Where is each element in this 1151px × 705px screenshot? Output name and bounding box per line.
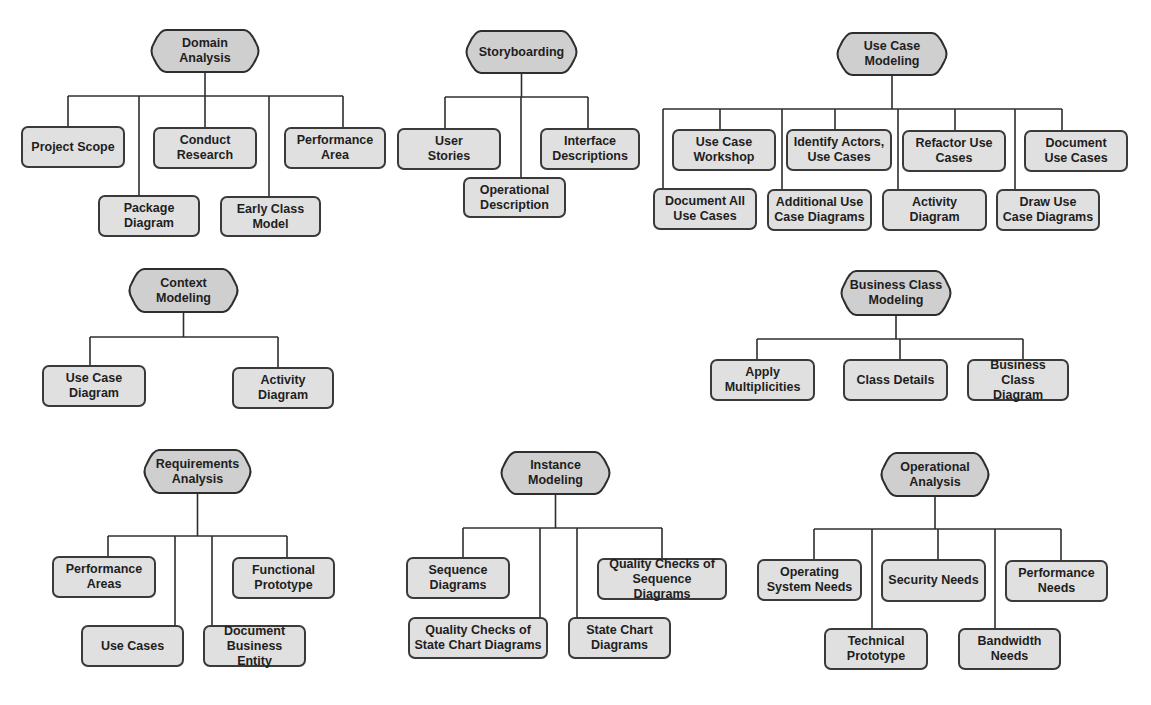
task-node-label: Additional Use Case Diagrams <box>774 195 864 225</box>
phase-node-label: Domain Analysis <box>179 36 230 66</box>
diagram-canvas: Domain AnalysisProject ScopePackage Diag… <box>0 0 1151 705</box>
task-node-class-details[interactable]: Class Details <box>843 359 948 401</box>
task-node-label: Activity Diagram <box>258 373 308 403</box>
task-node-label: Performance Area <box>297 133 373 163</box>
task-node-performance-area[interactable]: Performance Area <box>284 127 386 169</box>
phase-node-storyboarding[interactable]: Storyboarding <box>463 30 580 74</box>
task-node-package-diagram[interactable]: Package Diagram <box>98 195 200 237</box>
task-node-performance-needs[interactable]: Performance Needs <box>1005 560 1108 602</box>
task-node-label: Bandwidth Needs <box>978 634 1042 664</box>
phase-node-label: Requirements Analysis <box>156 457 239 487</box>
task-node-label: Apply Multiplicities <box>725 365 801 395</box>
task-node-draw-use-case-diagrams[interactable]: Draw Use Case Diagrams <box>996 189 1100 231</box>
phase-node-instance-modeling[interactable]: Instance Modeling <box>498 451 613 495</box>
task-node-project-scope[interactable]: Project Scope <box>21 126 125 168</box>
task-node-label: Early Class Model <box>237 202 304 232</box>
task-node-refactor-use-cases[interactable]: Refactor Use Cases <box>902 130 1006 172</box>
task-node-label: Use Case Diagram <box>66 371 122 401</box>
task-node-performance-areas[interactable]: Performance Areas <box>52 556 156 598</box>
task-node-sequence-diagrams[interactable]: Sequence Diagrams <box>406 557 510 599</box>
phase-node-label: Business Class Modeling <box>850 278 942 308</box>
task-node-quality-checks-of-state-chart-diagrams[interactable]: Quality Checks of State Chart Diagrams <box>408 617 548 659</box>
task-node-label: Use Cases <box>101 639 164 654</box>
task-node-activity-diagram[interactable]: Activity Diagram <box>882 189 987 231</box>
task-node-label: Document Business Entity <box>209 624 300 669</box>
task-node-label: Security Needs <box>888 573 978 588</box>
task-node-business-class-diagram[interactable]: Business Class Diagram <box>967 359 1069 401</box>
task-node-document-all-use-cases[interactable]: Document All Use Cases <box>653 188 757 230</box>
task-node-label: Document All Use Cases <box>665 194 745 224</box>
phase-node-requirements-analysis[interactable]: Requirements Analysis <box>141 449 254 494</box>
phase-node-business-class-modeling[interactable]: Business Class Modeling <box>838 270 954 316</box>
task-node-label: Quality Checks of Sequence Diagrams <box>603 557 721 602</box>
task-node-label: Refactor Use Cases <box>915 136 992 166</box>
task-node-technical-prototype[interactable]: Technical Prototype <box>824 628 928 670</box>
task-node-label: Operational Description <box>480 183 549 213</box>
task-node-bandwidth-needs[interactable]: Bandwidth Needs <box>958 628 1061 670</box>
task-node-label: Document Use Cases <box>1044 136 1107 166</box>
phase-node-use-case-modeling[interactable]: Use Case Modeling <box>834 32 950 76</box>
phase-node-context-modeling[interactable]: Context Modeling <box>126 268 241 313</box>
task-node-use-cases[interactable]: Use Cases <box>81 625 184 667</box>
task-node-label: Technical Prototype <box>847 634 905 664</box>
task-node-functional-prototype[interactable]: Functional Prototype <box>232 557 335 599</box>
task-node-operational-description[interactable]: Operational Description <box>463 177 566 218</box>
task-node-identify-actors-use-cases[interactable]: Identify Actors, Use Cases <box>786 129 892 171</box>
task-node-activity-diagram[interactable]: Activity Diagram <box>232 367 334 409</box>
task-node-label: Identify Actors, Use Cases <box>794 135 885 165</box>
task-node-label: User Stories <box>428 134 470 164</box>
phase-node-label: Operational Analysis <box>900 460 969 490</box>
task-node-user-stories[interactable]: User Stories <box>397 128 501 170</box>
task-node-label: Sequence Diagrams <box>428 563 487 593</box>
task-node-label: Functional Prototype <box>252 563 315 593</box>
task-node-use-case-diagram[interactable]: Use Case Diagram <box>42 365 146 407</box>
phase-node-label: Use Case Modeling <box>864 39 920 69</box>
task-node-label: Performance Areas <box>66 562 142 592</box>
task-node-security-needs[interactable]: Security Needs <box>881 559 986 602</box>
phase-node-domain-analysis[interactable]: Domain Analysis <box>148 29 262 73</box>
phase-node-label: Storyboarding <box>479 45 564 60</box>
task-node-label: Draw Use Case Diagrams <box>1003 195 1093 225</box>
task-node-interface-descriptions[interactable]: Interface Descriptions <box>540 128 640 170</box>
task-node-label: Use Case Workshop <box>694 135 755 165</box>
task-node-additional-use-case-diagrams[interactable]: Additional Use Case Diagrams <box>767 189 872 231</box>
task-node-label: Business Class Diagram <box>973 358 1063 403</box>
task-node-label: Class Details <box>857 373 935 388</box>
task-node-early-class-model[interactable]: Early Class Model <box>220 196 321 237</box>
task-node-label: Project Scope <box>31 140 114 155</box>
task-node-operating-system-needs[interactable]: Operating System Needs <box>757 559 862 601</box>
task-node-label: Quality Checks of State Chart Diagrams <box>414 623 541 653</box>
phase-node-label: Instance Modeling <box>528 458 583 488</box>
task-node-quality-checks-of-sequence-diagrams[interactable]: Quality Checks of Sequence Diagrams <box>597 558 727 600</box>
task-node-document-business-entity[interactable]: Document Business Entity <box>203 625 306 667</box>
phase-node-label: Context Modeling <box>156 276 211 306</box>
task-node-label: Performance Needs <box>1018 566 1094 596</box>
task-node-state-chart-diagrams[interactable]: State Chart Diagrams <box>568 617 671 659</box>
task-node-apply-multiplicities[interactable]: Apply Multiplicities <box>710 359 815 401</box>
task-node-label: Conduct Research <box>177 133 233 163</box>
task-node-use-case-workshop[interactable]: Use Case Workshop <box>672 129 776 171</box>
phase-node-operational-analysis[interactable]: Operational Analysis <box>878 452 992 497</box>
task-node-label: State Chart Diagrams <box>586 623 653 653</box>
task-node-label: Interface Descriptions <box>552 134 628 164</box>
task-node-label: Activity Diagram <box>909 195 959 225</box>
task-node-label: Operating System Needs <box>767 565 852 595</box>
task-node-document-use-cases[interactable]: Document Use Cases <box>1024 130 1128 172</box>
task-node-conduct-research[interactable]: Conduct Research <box>153 127 257 169</box>
task-node-label: Package Diagram <box>124 201 175 231</box>
